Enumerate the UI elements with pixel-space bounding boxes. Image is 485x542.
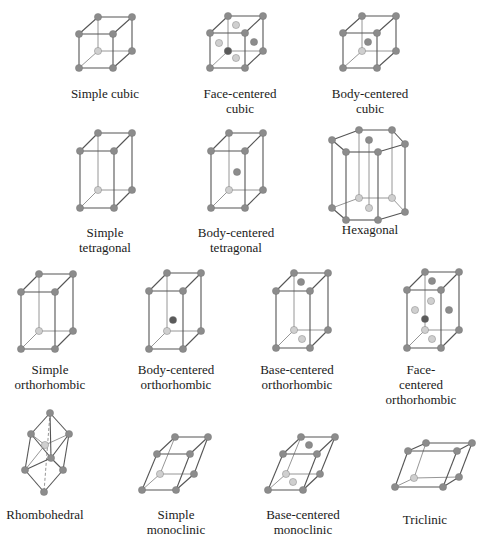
atom-icon xyxy=(94,186,101,193)
lattice-edge xyxy=(407,330,425,348)
lattice-simple-orthorhombic xyxy=(17,270,76,352)
lattice-edge xyxy=(303,454,317,490)
lattice-face-centered-cubic xyxy=(206,12,266,71)
atom-icon xyxy=(365,136,372,143)
lattice-edge xyxy=(286,437,301,474)
lattice-edge xyxy=(183,331,201,349)
lattice-edge xyxy=(149,273,167,291)
atom-icon xyxy=(299,486,306,493)
atom-icon xyxy=(428,335,435,342)
lattice-edge xyxy=(441,272,459,290)
lattice-edge xyxy=(31,413,50,434)
lattice-edge xyxy=(183,273,201,291)
atom-icon xyxy=(439,483,446,490)
lattice-edge xyxy=(113,17,132,34)
atom-icon xyxy=(339,64,346,71)
atom-icon xyxy=(272,287,279,294)
atom-icon xyxy=(421,315,428,322)
lattice-edge xyxy=(276,273,294,291)
atom-icon xyxy=(421,326,428,333)
atom-icon xyxy=(328,204,335,211)
atom-icon xyxy=(241,204,248,211)
atom-icon xyxy=(207,147,214,154)
atom-icon xyxy=(401,208,408,215)
atom-icon xyxy=(313,450,320,457)
atom-icon xyxy=(305,441,312,448)
atom-icon xyxy=(392,47,399,54)
lattice-edge xyxy=(80,133,98,151)
lattice-edge xyxy=(114,190,132,208)
lattice-edge xyxy=(378,144,405,152)
atom-icon xyxy=(197,327,204,334)
atom-icon xyxy=(279,450,286,457)
atom-icon xyxy=(290,326,297,333)
lattice-edge xyxy=(245,190,263,208)
lattice-edge xyxy=(268,454,283,490)
lattice-edge xyxy=(114,133,132,151)
atom-icon xyxy=(403,344,410,351)
atom-icon xyxy=(282,470,289,477)
lattice-body-centered-tetragonal xyxy=(207,129,266,211)
atom-icon xyxy=(186,450,193,457)
atom-icon xyxy=(455,326,462,333)
atom-icon xyxy=(289,478,296,485)
label-hexagonal: Hexagonal xyxy=(342,222,398,237)
atom-icon xyxy=(306,344,313,351)
label-rhombohedral: Rhombohedral xyxy=(6,507,83,522)
atom-icon xyxy=(259,12,266,19)
lattice-edge xyxy=(310,330,328,348)
atom-icon xyxy=(455,473,462,480)
atom-icon xyxy=(297,433,304,440)
atom-icon xyxy=(94,47,101,54)
atom-icon xyxy=(373,29,380,36)
lattice-edge xyxy=(63,434,69,470)
label-base-centered-orthorhombic: Base-centered orthorhombic xyxy=(260,362,334,392)
label-simple-cubic: Simple cubic xyxy=(71,86,139,101)
atom-icon xyxy=(156,470,163,477)
atom-icon xyxy=(41,441,48,448)
lattice-edge xyxy=(50,413,69,434)
atom-icon xyxy=(373,64,380,71)
label-body-centered-cubic: Body-centered cubic xyxy=(332,86,409,116)
atom-icon xyxy=(17,345,24,352)
atom-icon xyxy=(206,64,213,71)
atom-icon xyxy=(17,288,24,295)
label-simple-tetragonal: Simple tetragonal xyxy=(79,225,131,255)
lattice-edge xyxy=(44,470,63,492)
lattice-edge xyxy=(211,133,229,151)
atom-icon xyxy=(163,327,170,334)
lattice-edge xyxy=(377,16,396,33)
atom-icon xyxy=(364,38,371,45)
lattice-edge xyxy=(50,413,51,458)
atom-icon xyxy=(94,129,101,136)
label-simple-orthorhombic: Simple orthorhombic xyxy=(15,362,86,392)
atom-icon xyxy=(75,64,82,71)
atom-icon xyxy=(358,12,365,19)
atom-icon xyxy=(197,269,204,276)
atom-icon xyxy=(427,297,434,304)
lattice-edge xyxy=(25,434,31,470)
lattice-edge xyxy=(407,272,425,290)
lattice-edge xyxy=(25,470,44,492)
atom-icon xyxy=(388,194,395,201)
atom-icon xyxy=(206,29,213,36)
lattice-edge xyxy=(332,130,359,140)
atom-icon xyxy=(51,288,58,295)
atom-icon xyxy=(109,64,116,71)
lattice-edge xyxy=(343,51,362,68)
atom-icon xyxy=(179,345,186,352)
atom-icon xyxy=(109,30,116,37)
lattice-edge xyxy=(343,16,362,33)
atom-icon xyxy=(264,486,271,493)
atom-icon xyxy=(410,474,417,481)
atom-icon xyxy=(306,287,313,294)
atom-icon xyxy=(232,54,239,61)
atom-icon xyxy=(259,129,266,136)
label-body-centered-orthorhombic: Body-centered orthorhombic xyxy=(138,362,215,392)
atom-icon xyxy=(241,29,248,36)
atom-icon xyxy=(437,286,444,293)
atom-icon xyxy=(35,327,42,334)
atom-icon xyxy=(455,268,462,275)
label-simple-monoclinic: Simple monoclinic xyxy=(147,507,206,537)
lattice-edge xyxy=(194,437,208,474)
